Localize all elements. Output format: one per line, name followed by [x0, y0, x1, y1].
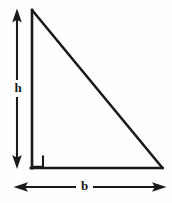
height-label: h	[14, 80, 22, 95]
right-triangle-diagram: h b	[0, 0, 172, 203]
base-label: b	[81, 178, 88, 193]
canvas-background	[0, 0, 172, 203]
diagram-canvas: h b	[0, 0, 172, 203]
